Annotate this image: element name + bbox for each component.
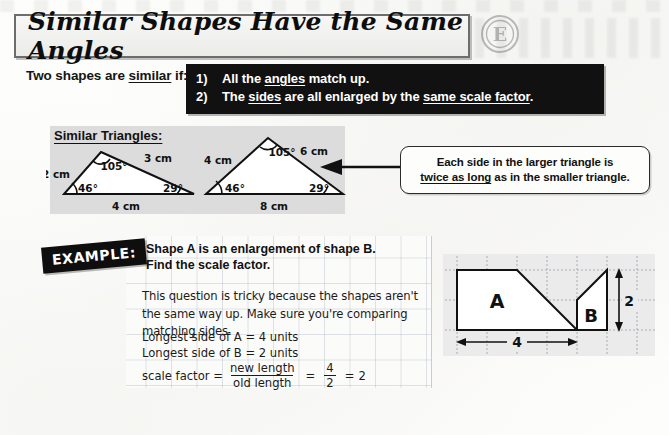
page-title: Similar Shapes Have the Same Angles	[16, 7, 468, 65]
small-triangle-left-side-label: 2 cm	[46, 168, 70, 180]
small-triangle-right-angle: 29°	[163, 182, 183, 194]
small-triangle-right-side-label: 3 cm	[144, 152, 172, 164]
example-question-line-1: Shape A is an enlargement of shape B.	[146, 241, 376, 257]
formula-numerator-words: new length	[228, 362, 297, 375]
small-triangle-base-label: 4 cm	[112, 200, 140, 212]
large-triangle-apex-angle: 105°	[268, 146, 295, 158]
rules-box: 1) All the angles match up. 2) The sides…	[186, 64, 604, 114]
formula-equals-1: =	[306, 369, 316, 383]
intro-similar-word: similar	[129, 68, 172, 83]
example-formula: scale factor = new length old length = 4…	[142, 362, 366, 389]
small-triangle-apex-angle: 105°	[100, 160, 127, 172]
worksheet-page: Similar Shapes Have the Same Angles E Tw…	[0, 0, 669, 435]
exam-level-badge-icon: E	[478, 13, 522, 55]
callout-line-2: twice as long as in the smaller triangle…	[420, 170, 629, 185]
rule-1-text: All the angles match up.	[222, 71, 369, 86]
svg-text:E: E	[493, 23, 507, 45]
formula-ratio-numbers: 4 2	[324, 362, 335, 389]
callout-arrow-icon	[318, 156, 404, 178]
formula-ratio-words: new length old length	[228, 362, 297, 389]
small-triangle-left-angle: 46°	[78, 182, 98, 194]
shape-b-dimension-label: 2	[624, 293, 634, 309]
page-title-box: Similar Shapes Have the Same Angles	[14, 14, 470, 58]
example-steps: Longest side of A = 4 units Longest side…	[142, 330, 298, 361]
formula-result: 2	[358, 369, 365, 383]
shapes-diagram-figure: A 4 B 2	[443, 250, 657, 362]
rule-1-number: 1)	[196, 71, 222, 86]
rule-2-text: The sides are all enlarged by the same s…	[222, 89, 533, 104]
shape-a-label: A	[490, 290, 505, 312]
large-triangle-base-label: 8 cm	[260, 200, 288, 212]
intro-line: Two shapes are similar if:	[26, 68, 187, 83]
large-triangle-left-angle: 46°	[225, 182, 245, 194]
example-step-1: Longest side of A = 4 units	[142, 330, 298, 346]
example-question: Shape A is an enlargement of shape B. Fi…	[146, 241, 376, 273]
example-badge-label: EXAMPLE:	[51, 244, 136, 268]
rule-item-2: 2) The sides are all enlarged by the sam…	[186, 86, 604, 104]
intro-lead-a: Two shapes are	[26, 68, 129, 83]
rule-2-number: 2)	[196, 89, 222, 104]
rule-item-1: 1) All the angles match up.	[186, 68, 604, 86]
callout-line-1: Each side in the larger triangle is	[437, 155, 614, 170]
shape-b-label: B	[584, 305, 598, 326]
callout-box: Each side in the larger triangle is twic…	[400, 146, 650, 194]
example-step-2: Longest side of B = 2 units	[142, 346, 298, 362]
large-triangle-left-side-label: 4 cm	[204, 154, 232, 166]
shape-a-dimension-label: 4	[512, 334, 522, 350]
similar-triangles-figure: 2 cm 3 cm 4 cm 105° 46° 29° 4 cm 6 cm 8 …	[46, 126, 356, 218]
example-question-line-2: Find the scale factor.	[146, 257, 376, 273]
formula-numerator-number: 4	[324, 362, 335, 375]
formula-label: scale factor =	[142, 369, 223, 383]
formula-denominator-words: old length	[231, 375, 293, 389]
large-triangle-right-angle: 29°	[309, 182, 329, 194]
formula-denominator-number: 2	[324, 375, 335, 389]
formula-equals-2: =	[345, 369, 355, 383]
